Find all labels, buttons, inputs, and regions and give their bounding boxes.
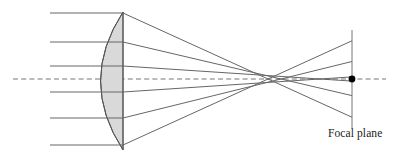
focal-point-dot <box>349 76 356 83</box>
refracted-ray-marginal-upper <box>123 13 352 117</box>
focal-plane-label: Focal plane <box>328 127 382 139</box>
refracted-ray-marginal-lower <box>123 41 352 145</box>
refracted-ray-mid-upper <box>123 42 352 96</box>
